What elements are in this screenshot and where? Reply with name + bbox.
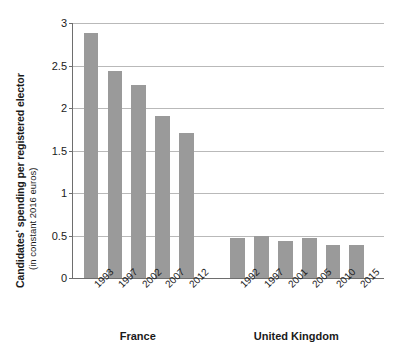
y-axis-subtitle: (in constant 2016 euros) <box>27 168 38 270</box>
bar <box>84 33 99 278</box>
plot-area: 00.511.522.53 <box>72 23 384 279</box>
bar <box>230 238 245 278</box>
y-tick-label: 2.5 <box>52 60 67 72</box>
y-tick-mark <box>69 66 73 67</box>
y-tick-label: 0 <box>61 272 67 284</box>
y-tick-mark <box>69 23 73 24</box>
y-tick-mark <box>69 236 73 237</box>
y-tick-mark <box>69 108 73 109</box>
group-label: United Kingdom <box>254 330 339 342</box>
y-tick-mark <box>69 193 73 194</box>
y-tick-label: 2 <box>61 102 67 114</box>
y-tick-label: 1.5 <box>52 145 67 157</box>
y-tick-label: 0.5 <box>52 230 67 242</box>
y-gridline <box>73 23 384 24</box>
y-gridline <box>73 66 384 67</box>
y-tick-label: 1 <box>61 187 67 199</box>
y-axis-title-group: Candidates' spending per registered elec… <box>0 0 40 300</box>
bar-chart-figure: Candidates' spending per registered elec… <box>0 0 395 358</box>
y-axis-title: Candidates' spending per registered elec… <box>14 73 26 288</box>
bar <box>108 71 123 278</box>
bar <box>155 116 170 278</box>
bar <box>179 133 194 278</box>
bar <box>131 85 146 278</box>
group-label: France <box>120 330 156 342</box>
y-tick-mark <box>69 151 73 152</box>
y-tick-mark <box>69 278 73 279</box>
y-tick-label: 3 <box>61 17 67 29</box>
